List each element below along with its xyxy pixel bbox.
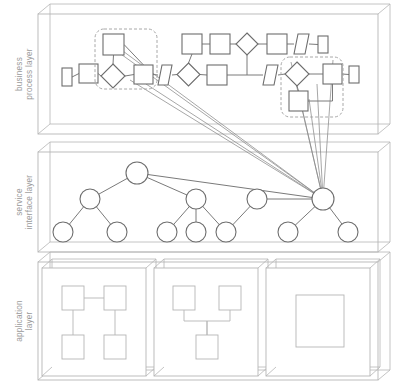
service-node-svc-mid-2 <box>186 189 206 209</box>
layer-depth-edge-business-process-layer-0 <box>38 4 50 14</box>
layer-label-business-process-layer-line-1: process layer <box>25 48 34 99</box>
service-node-svc-mid-3 <box>247 189 267 209</box>
service-node-svc-root <box>126 162 148 184</box>
bp-node-bp-start <box>62 68 72 86</box>
layer-depth-edge-business-process-layer-3 <box>378 124 390 134</box>
service-node-svc-leaf-4 <box>186 222 206 242</box>
service-node-svc-leaf-2 <box>107 222 127 242</box>
layer-label-application-layer-line-0: application <box>15 300 24 342</box>
app-subbox-app-box-1 <box>42 259 156 376</box>
bp-connector-6 <box>153 75 158 76</box>
service-node-svc-mid-1 <box>80 189 100 209</box>
service-node-svc-leaf-7 <box>338 222 358 242</box>
service-node-svc-mid-4 <box>312 188 334 210</box>
layer-depth-edge-application-layer-3 <box>378 370 390 380</box>
bp-node-bp-task-6 <box>267 34 287 54</box>
layer-label-application-layer-line-1: layer <box>25 312 34 331</box>
layer-labels-group: businessprocess layerserviceinterface la… <box>15 48 34 341</box>
service-node-svc-leaf-5 <box>216 222 236 242</box>
bp-connector-7 <box>172 75 177 76</box>
bp-node-bp-task-4 <box>182 34 202 54</box>
layer-depth-edge-service-interface-layer-0 <box>38 142 50 152</box>
diagram-canvas: businessprocess layerserviceinterface la… <box>0 0 393 392</box>
layer-label-business-process-layer-line-0: business <box>15 57 24 91</box>
architecture-diagram: businessprocess layerserviceinterface la… <box>0 0 393 392</box>
app-subbox-app-box-2 <box>154 259 268 376</box>
app-component-app3-comp-a <box>296 295 344 347</box>
app-component-app1-comp-c <box>62 335 84 359</box>
app-component-app1-comp-a <box>62 286 84 310</box>
bp-connector-3 <box>113 55 114 64</box>
layer-depth-edge-business-process-layer-1 <box>378 4 390 14</box>
bp-connector-9 <box>200 75 207 76</box>
layer-depth-edge-application-layer-0 <box>38 252 50 262</box>
bp-connector-14 <box>309 44 318 45</box>
service-node-svc-leaf-6 <box>278 222 298 242</box>
bp-node-bp-task-7 <box>207 65 227 85</box>
layer-depth-edge-service-interface-layer-3 <box>378 242 390 252</box>
layer-label-service-interface-layer-line-1: interface layer <box>25 175 34 229</box>
app-component-app1-comp-d <box>104 335 126 359</box>
app-component-app2-comp-a <box>173 286 195 310</box>
layer-depth-edge-service-interface-layer-1 <box>378 142 390 152</box>
bp-node-bp-task-9 <box>323 64 342 84</box>
bp-node-bp-end-2 <box>349 66 359 83</box>
service-node-svc-leaf-3 <box>157 222 177 242</box>
app-subbox-app-box-3 <box>266 259 380 376</box>
service-node-svc-leaf-1 <box>53 222 73 242</box>
app-component-app2-comp-c <box>196 335 218 359</box>
app-component-app1-comp-b <box>104 286 126 310</box>
layer-label-service-interface-layer-line-0: service <box>15 188 24 216</box>
bp-node-bp-task-2 <box>103 34 124 55</box>
app-subbox-front-app-box-1 <box>42 268 146 376</box>
application-group <box>42 259 380 376</box>
app-subbox-front-app-box-2 <box>154 268 258 376</box>
bp-node-bp-end-1 <box>318 36 328 53</box>
bp-node-bp-task-3 <box>134 65 153 84</box>
app-component-app2-comp-b <box>219 286 241 310</box>
bp-node-bp-task-5 <box>210 34 230 54</box>
bp-node-bp-task-8 <box>289 91 308 111</box>
